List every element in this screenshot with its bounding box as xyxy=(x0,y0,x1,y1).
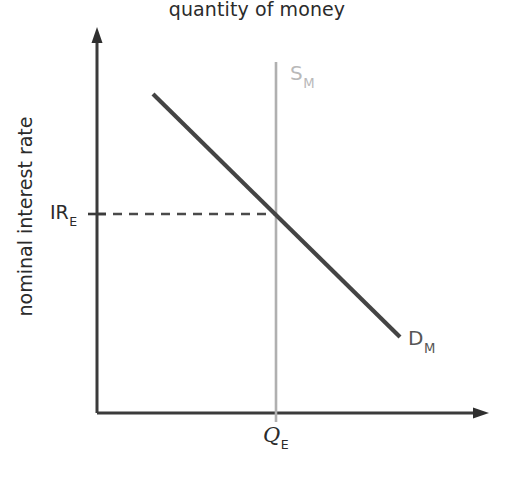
money-demand-curve-label-main: D xyxy=(408,326,423,350)
money-demand-curve-label: DM xyxy=(408,328,435,348)
y-axis-arrowhead xyxy=(92,27,103,43)
y-axis-title: nominal interest rate xyxy=(16,87,35,347)
equilibrium-quantity-label: QE xyxy=(263,425,289,446)
equilibrium-interest-rate-label: IRE xyxy=(50,203,77,222)
x-axis xyxy=(97,408,489,419)
money-supply-curve-label: SM xyxy=(290,63,315,83)
x-axis-arrowhead xyxy=(473,408,489,419)
plot-canvas xyxy=(0,0,514,495)
money-supply-curve-label-subscript: M xyxy=(303,76,315,91)
equilibrium-interest-rate-label-main: IR xyxy=(50,201,69,223)
money-market-diagram: nominal interest rate quantity of money … xyxy=(0,0,514,495)
equilibrium-interest-rate-label-subscript: E xyxy=(69,214,77,229)
x-axis-title: quantity of money xyxy=(0,0,514,19)
money-demand-curve-label-subscript: M xyxy=(423,341,435,356)
equilibrium-quantity-label-main: Q xyxy=(263,423,280,447)
equilibrium-quantity-label-subscript: E xyxy=(280,437,288,452)
y-axis-title-wrapper: nominal interest rate xyxy=(0,0,46,495)
y-axis xyxy=(92,27,103,413)
money-supply-curve-label-main: S xyxy=(290,61,303,85)
